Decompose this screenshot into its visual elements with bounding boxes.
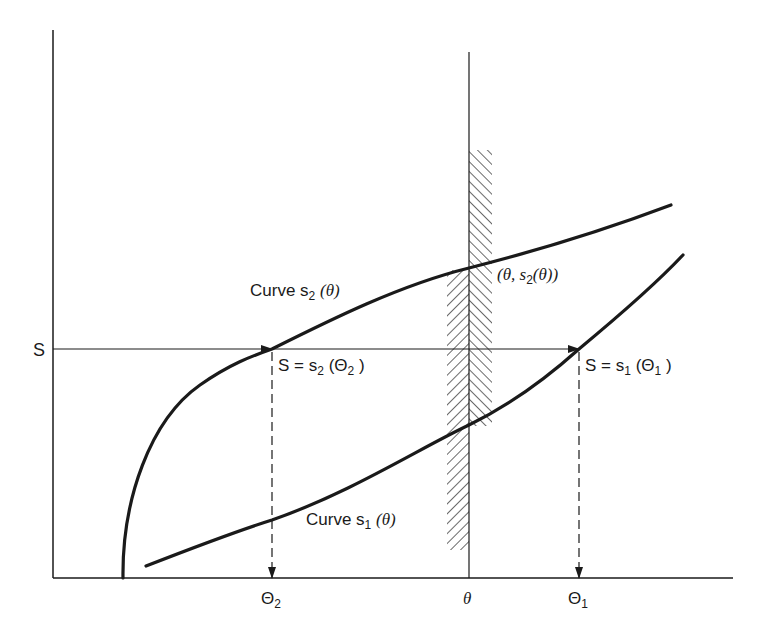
curve-s2-label-prefix: Curve s [250,281,309,300]
curve-s1 [146,255,683,566]
curve-s1-label: Curve s1 (θ) [306,511,396,528]
x-tick-Theta1: Θ1 [568,590,588,607]
eq1-close: ) [661,356,671,375]
x-tick-Theta1-main: Θ [568,589,581,608]
y-axis-label-S: S [33,341,45,359]
eq1-mid: (Θ [631,356,655,375]
x-tick-Theta2-main: Θ [261,589,274,608]
curve-s1-label-sub: 1 [365,518,372,532]
curve-s1-label-arg: (θ) [376,510,396,529]
eq1-sub: 1 [624,364,631,378]
point-sub: 2 [526,273,533,287]
curve-s1-label-prefix: Curve s [306,510,365,529]
hatched-region-right [469,150,492,426]
S-equals-s2-Theta2-annotation: S = s2 (Θ2 ) [278,357,365,374]
x-tick-Theta2-sub: 2 [274,597,281,611]
diagram-canvas [0,0,762,639]
point-open: (θ, s [497,265,526,284]
point-close: (θ)) [533,265,558,284]
eq1-prefix: S = s [585,356,624,375]
curve-s2-label: Curve s2 (θ) [250,282,340,299]
S-equals-s1-Theta1-annotation: S = s1 (Θ1 ) [585,357,672,374]
curve-s2-label-arg: (θ) [320,281,340,300]
curve-s2 [123,205,671,578]
x-tick-Theta1-sub: 1 [581,597,588,611]
hatched-region-left [447,270,469,550]
eq2-close: ) [354,356,364,375]
point-s2-theta-annotation: (θ, s2(θ)) [497,266,558,283]
x-tick-theta: θ [463,590,471,607]
curve-s2-label-sub: 2 [309,289,316,303]
eq2-mid: (Θ [324,356,348,375]
eq2-prefix: S = s [278,356,317,375]
x-tick-Theta2: Θ2 [261,590,281,607]
eq2-sub: 2 [317,364,324,378]
